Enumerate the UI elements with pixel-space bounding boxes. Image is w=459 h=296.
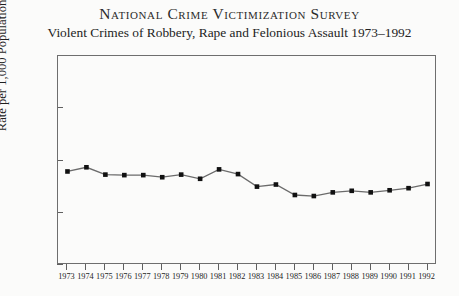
data-point-marker (217, 167, 222, 172)
x-axis-tick-mark (237, 264, 238, 270)
x-axis-tick-mark (408, 264, 409, 270)
x-axis-tick-mark (123, 264, 124, 270)
data-point-marker (255, 184, 260, 189)
x-axis-tick-mark (66, 264, 67, 270)
page-title: National Crime Victimization Survey (0, 4, 459, 23)
x-axis-tick-mark (370, 264, 371, 270)
x-axis-tick-mark (275, 264, 276, 270)
data-point-marker (330, 190, 335, 195)
x-axis-tick-mark (218, 264, 219, 270)
data-point-marker (387, 188, 392, 193)
x-axis-tick-mark (332, 264, 333, 270)
data-point-marker (160, 175, 165, 180)
x-axis-tick-mark (256, 264, 257, 270)
plot-area (57, 55, 436, 264)
data-point-marker (312, 194, 317, 199)
chart-subtitle: Violent Crimes of Robbery, Rape and Felo… (0, 24, 459, 42)
data-point-marker (84, 165, 89, 170)
x-axis-tick-mark (180, 264, 181, 270)
x-axis-tick-mark (294, 264, 295, 270)
x-axis-tick-mark (85, 264, 86, 270)
data-point-marker (236, 172, 241, 177)
x-axis-tick-mark (199, 264, 200, 270)
data-point-marker (368, 190, 373, 195)
data-point-marker (425, 182, 430, 187)
data-point-marker (141, 173, 146, 178)
data-point-marker (198, 176, 203, 181)
chart-title-block: National Crime Victimization Survey Viol… (0, 4, 459, 42)
data-point-marker (349, 189, 354, 194)
data-point-marker (122, 173, 127, 178)
x-axis-tick-mark (142, 264, 143, 270)
data-point-marker (179, 172, 184, 177)
x-axis-tick-mark (351, 264, 352, 270)
x-axis-tick-mark (389, 264, 390, 270)
y-axis-title: Rate per 1,000 Population (0, 0, 10, 171)
data-point-marker (65, 169, 70, 174)
x-axis-tick-mark (427, 264, 428, 270)
data-point-marker (293, 193, 298, 198)
line-chart-svg (58, 56, 437, 265)
data-series-line (67, 167, 427, 196)
data-point-marker (274, 182, 279, 187)
data-point-marker (103, 172, 108, 177)
chart-figure: National Crime Victimization Survey Viol… (0, 0, 459, 296)
x-axis-tick-mark (313, 264, 314, 270)
x-axis-tick-label: 1992 (407, 272, 447, 281)
data-point-markers (65, 165, 430, 198)
x-axis-tick-mark (161, 264, 162, 270)
data-point-marker (406, 186, 411, 191)
x-axis-tick-mark (104, 264, 105, 270)
